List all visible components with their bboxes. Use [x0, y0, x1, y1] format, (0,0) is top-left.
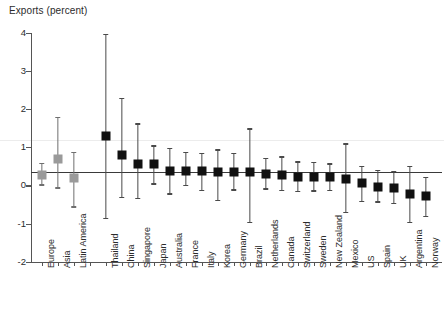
x-tick-label: Mexico: [350, 239, 360, 268]
data-point: [418, 0, 434, 331]
point-marker: [309, 173, 318, 182]
data-point: [98, 0, 114, 331]
data-point: [354, 0, 370, 331]
x-tick-label: Thailand: [110, 233, 120, 268]
error-bar: [57, 117, 58, 187]
error-bar-cap-upper: [167, 148, 173, 149]
error-bar-cap-upper: [359, 166, 365, 167]
x-tick-label: Singapore: [142, 227, 152, 268]
x-tick-label: Latin America: [78, 213, 88, 268]
error-bar-cap-upper: [55, 117, 61, 118]
error-bar-cap-upper: [71, 152, 77, 153]
point-marker: [357, 179, 366, 188]
error-bar-cap-lower: [343, 212, 349, 213]
y-tick-label: 2: [6, 103, 26, 114]
data-point: [306, 0, 322, 331]
error-bar-cap-upper: [151, 145, 157, 146]
y-tick: [26, 147, 31, 148]
point-marker: [341, 174, 350, 183]
x-tick-label: Italy: [206, 251, 216, 268]
error-bar-cap-lower: [375, 201, 381, 202]
data-point: [66, 0, 82, 331]
error-bar: [105, 34, 106, 218]
error-bar-cap-upper: [39, 163, 45, 164]
x-tick-label: Switzerland: [302, 221, 312, 268]
y-tick: [26, 33, 31, 34]
error-bar-cap-lower: [39, 184, 45, 185]
error-bar-cap-lower: [263, 188, 269, 189]
x-tick-label: Canada: [286, 236, 296, 268]
error-bar-cap-lower: [183, 185, 189, 186]
point-marker: [149, 160, 158, 169]
error-bar-cap-lower: [71, 206, 77, 207]
error-bar-cap-lower: [295, 191, 301, 192]
error-bar-cap-upper: [183, 152, 189, 153]
error-bar-cap-upper: [327, 163, 333, 164]
point-marker: [373, 182, 382, 191]
error-bar-cap-upper: [103, 34, 109, 35]
data-point: [210, 0, 226, 331]
data-point: [34, 0, 50, 331]
y-tick: [26, 185, 31, 186]
point-marker: [117, 151, 126, 160]
data-point: [194, 0, 210, 331]
error-bar-cap-lower: [311, 190, 317, 191]
y-tick: [26, 224, 31, 225]
error-bar-cap-upper: [279, 156, 285, 157]
point-marker: [133, 159, 142, 168]
data-point: [130, 0, 146, 331]
data-point: [50, 0, 66, 331]
error-bar: [121, 98, 122, 197]
x-tick-label: Brazil: [254, 245, 264, 268]
data-point: [402, 0, 418, 331]
data-point: [114, 0, 130, 331]
y-tick-label: 1: [6, 141, 26, 152]
x-tick-label: US: [366, 255, 376, 268]
error-bar-cap-upper: [375, 170, 381, 171]
point-marker: [261, 169, 270, 178]
point-marker: [325, 173, 334, 182]
error-bar-cap-lower: [167, 193, 173, 194]
error-bar-cap-lower: [279, 190, 285, 191]
error-bar-cap-upper: [231, 153, 237, 154]
chart-figure: Exports (percent) 43210-1-2 EuropeAsiaLa…: [0, 0, 444, 331]
x-tick-label: France: [190, 240, 200, 268]
y-axis-line: [31, 33, 32, 262]
error-bar-cap-lower: [135, 198, 141, 199]
error-bar-cap-lower: [327, 190, 333, 191]
y-tick: [26, 71, 31, 72]
point-marker: [405, 189, 414, 198]
point-marker: [421, 192, 430, 201]
error-bar-cap-upper: [343, 143, 349, 144]
x-tick: [90, 262, 91, 267]
point-marker: [53, 154, 62, 163]
x-tick-label: UK: [398, 255, 408, 268]
x-tick-label: Norway: [430, 237, 440, 268]
point-marker: [101, 131, 110, 140]
error-bar-cap-lower: [391, 203, 397, 204]
plot-area: 43210-1-2 EuropeAsiaLatin AmericaThailan…: [0, 0, 444, 331]
x-tick-label: Spain: [382, 245, 392, 268]
data-point: [162, 0, 178, 331]
point-marker: [389, 183, 398, 192]
point-marker: [37, 170, 46, 179]
error-bar-cap-lower: [151, 183, 157, 184]
x-tick-label: Asia: [62, 250, 72, 268]
data-point: [386, 0, 402, 331]
error-bar-cap-upper: [391, 171, 397, 172]
error-bar-cap-upper: [407, 166, 413, 167]
data-point: [178, 0, 194, 331]
error-bar-cap-upper: [135, 123, 141, 124]
error-bar-cap-upper: [423, 177, 429, 178]
error-bar-cap-lower: [215, 200, 221, 201]
data-point: [226, 0, 242, 331]
x-tick-label: Japan: [158, 243, 168, 268]
error-bar-cap-upper: [199, 153, 205, 154]
data-point: [370, 0, 386, 331]
error-bar-cap-upper: [215, 149, 221, 150]
error-bar-cap-lower: [231, 189, 237, 190]
y-tick-label: 3: [6, 65, 26, 76]
error-bar-cap-upper: [295, 161, 301, 162]
error-bar-cap-upper: [311, 162, 317, 163]
error-bar-cap-upper: [247, 128, 253, 129]
